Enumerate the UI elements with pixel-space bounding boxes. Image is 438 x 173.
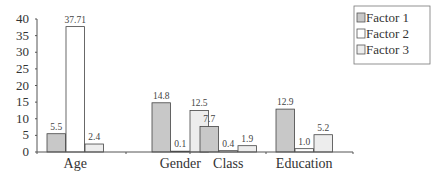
x-category-label: Gender: [160, 156, 202, 171]
x-category-label: Class: [213, 156, 243, 171]
y-axis: 0510152025303540: [16, 11, 37, 159]
x-category-label: Age: [64, 156, 87, 171]
y-tick-label: 15: [16, 94, 29, 109]
legend-label: Factor 1: [366, 10, 409, 25]
data-label: 12.9: [277, 97, 294, 107]
data-label: 1.9: [241, 134, 253, 144]
x-axis: AgeGenderClassEducation: [37, 152, 353, 171]
bar-factor-1-gender: [152, 103, 171, 152]
data-label: 7.7: [203, 114, 215, 124]
data-label: 5.2: [317, 123, 329, 133]
bar-factor-3-education: [314, 135, 333, 152]
y-tick-label: 35: [16, 28, 29, 43]
y-tick-label: 20: [16, 78, 29, 93]
data-label: 14.8: [153, 91, 170, 101]
data-label: 0.4: [222, 139, 234, 149]
bar-chart: 0510152025303540 5.537.712.414.80.112.57…: [0, 0, 438, 173]
legend-swatch: [357, 45, 365, 54]
bar-factor-1-age: [47, 134, 66, 152]
legend-label: Factor 3: [366, 42, 409, 57]
legend: Factor 1Factor 2Factor 3: [354, 6, 430, 64]
legend-swatch: [357, 29, 365, 38]
y-tick-label: 10: [16, 111, 29, 126]
y-tick-label: 30: [16, 44, 29, 59]
data-label: 12.5: [191, 98, 208, 108]
y-tick-label: 0: [23, 144, 30, 159]
bar-factor-2-age: [66, 27, 85, 152]
bar-factor-3-age: [85, 144, 104, 152]
data-label: 37.71: [65, 15, 87, 25]
y-tick-label: 5: [23, 127, 30, 142]
bars: 5.537.712.414.80.112.57.70.41.912.91.05.…: [47, 15, 333, 152]
bar-factor-3-class: [238, 146, 257, 152]
data-label: 1.0: [298, 137, 310, 147]
legend-label: Factor 2: [366, 26, 409, 41]
legend-swatch: [357, 13, 365, 22]
data-label: 5.5: [50, 122, 62, 132]
data-label: 0.1: [174, 139, 186, 149]
x-category-label: Education: [276, 156, 333, 171]
y-tick-label: 40: [16, 11, 29, 26]
data-label: 2.4: [88, 132, 100, 142]
y-tick-label: 25: [16, 61, 29, 76]
bar-factor-1-class: [200, 126, 219, 152]
bar-factor-1-education: [276, 109, 295, 152]
